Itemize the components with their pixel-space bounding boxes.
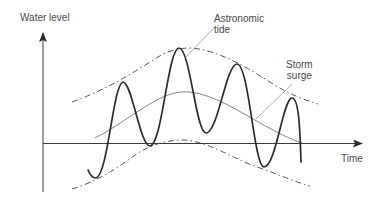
storm-surge-label: Storm surge bbox=[286, 59, 313, 81]
storm-surge-label-line1: Storm bbox=[286, 59, 313, 70]
y-axis-label: Water level bbox=[20, 12, 70, 23]
storm-surge-leader bbox=[256, 84, 292, 119]
storm-surge-label-line2: surge bbox=[286, 70, 313, 81]
astronomic-tide-label: Astronomic tide bbox=[214, 13, 264, 35]
astronomic-tide-label-line2: tide bbox=[214, 24, 264, 35]
astronomic-tide-leader bbox=[185, 28, 214, 58]
diagram-canvas bbox=[0, 0, 382, 202]
x-axis-label: Time bbox=[341, 153, 363, 164]
upper-envelope-curve bbox=[72, 48, 318, 104]
astronomic-tide-label-line1: Astronomic bbox=[214, 13, 264, 24]
tide-storm-surge-diagram: Water level Astronomic tide Storm surge … bbox=[0, 0, 382, 202]
astronomic-tide-curve bbox=[88, 48, 301, 178]
